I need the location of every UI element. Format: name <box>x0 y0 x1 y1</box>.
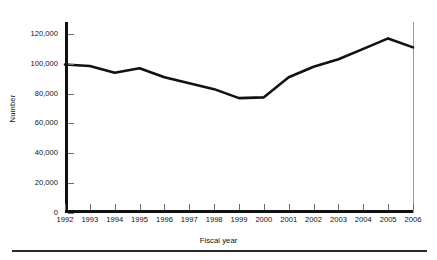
plot-area <box>65 22 414 213</box>
x-axis-tick <box>164 204 165 210</box>
x-axis-tick <box>140 204 141 210</box>
x-axis-tick <box>264 204 265 210</box>
x-axis-tick <box>289 204 290 210</box>
x-axis-tick <box>363 204 364 210</box>
y-axis-tick-label: 80,000 <box>12 90 58 98</box>
y-axis-tick <box>68 183 74 184</box>
y-axis-tick <box>68 64 74 65</box>
y-axis-tick-label: 40,000 <box>12 149 58 157</box>
y-axis-tick <box>68 34 74 35</box>
x-axis-tick <box>214 204 215 210</box>
x-axis-tick <box>388 204 389 210</box>
x-axis-tick <box>239 204 240 210</box>
x-axis-title: Fiscal year <box>0 236 437 245</box>
y-axis-tick-label: 120,000 <box>12 30 58 38</box>
x-axis-tick <box>338 204 339 210</box>
x-axis-tick-labels: 1992199319941995199619971998199920002001… <box>65 215 425 229</box>
y-axis-tick-label: 100,000 <box>12 60 58 68</box>
y-axis-tick-label: 20,000 <box>12 179 58 187</box>
y-axis-tick <box>68 94 74 95</box>
x-axis-tick <box>115 204 116 210</box>
bottom-divider <box>12 250 427 252</box>
x-axis-tick <box>413 204 414 210</box>
x-axis-tick <box>90 204 91 210</box>
y-axis-tick <box>68 153 74 154</box>
x-axis-tick <box>314 204 315 210</box>
y-axis-tick <box>68 213 74 214</box>
x-axis-tick-label: 2006 <box>395 215 431 224</box>
chart-figure: Number 020,00040,00060,00080,000100,0001… <box>0 0 437 260</box>
data-series-line <box>65 22 414 213</box>
y-axis-tick-label: 60,000 <box>12 119 58 127</box>
x-axis-tick <box>189 204 190 210</box>
y-axis-tick <box>68 123 74 124</box>
x-axis-tick <box>65 204 66 210</box>
